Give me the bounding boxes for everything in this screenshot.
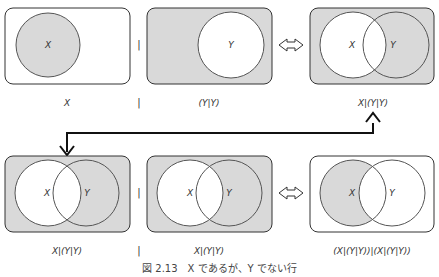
circle-label-y: Y: [389, 188, 395, 198]
circle-label-x: X: [44, 188, 50, 198]
expression-label: X|(Y|Y): [52, 246, 82, 256]
expression-label: (X|(Y|Y))|(X|(Y|Y)): [333, 246, 411, 256]
circle-label-y: Y: [390, 40, 396, 50]
expression-label: X|(Y|Y): [358, 98, 388, 108]
connector-arrow: [60, 113, 380, 155]
nand-operator: |: [137, 97, 140, 108]
circle-label-x: X: [349, 188, 355, 198]
venn-nand-y-panel: [147, 8, 272, 84]
venn-x-nand-panel: [310, 8, 434, 84]
circle-label-y: Y: [228, 40, 234, 50]
expression-label: X: [64, 98, 70, 108]
nand-operator: |: [137, 39, 140, 50]
venn-result-panel: [310, 156, 434, 232]
circle-label-x: X: [45, 40, 51, 50]
circle-label-y: Y: [84, 188, 90, 198]
venn-x-panel: [5, 8, 130, 84]
equivalence-arrow-icon: [279, 39, 303, 51]
expression-label: X|(Y|Y): [194, 246, 224, 256]
venn-bottom-middle-panel: [147, 156, 272, 232]
nand-operator: |: [137, 187, 140, 198]
circle-label-x: X: [187, 188, 193, 198]
nand-operator: |: [137, 245, 140, 256]
figure-caption: 図 2.13 X であるが、Y でない行: [142, 260, 297, 275]
equivalence-arrow-icon: [279, 187, 303, 199]
venn-bottom-left-panel: [5, 156, 130, 232]
circle-label-y: Y: [226, 188, 232, 198]
diagram-canvas: [0, 0, 439, 277]
expression-label: (Y|Y): [198, 98, 219, 108]
circle-label-x: X: [349, 40, 355, 50]
